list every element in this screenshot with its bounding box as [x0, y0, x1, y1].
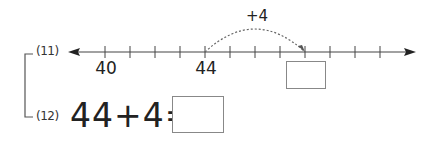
tick-label-40: 40	[95, 58, 117, 78]
problem-11-label: (11)	[36, 44, 59, 58]
equation-left: 44	[70, 96, 114, 135]
number-line-answer-box[interactable]	[286, 61, 326, 89]
equation-answer-box[interactable]	[172, 96, 224, 133]
tick-label-44: 44	[195, 58, 217, 78]
equation-right: 4	[143, 96, 165, 135]
jump-label: +4	[246, 7, 268, 25]
equation-op: +	[114, 96, 143, 135]
problem-12-label: (12)	[36, 109, 59, 123]
